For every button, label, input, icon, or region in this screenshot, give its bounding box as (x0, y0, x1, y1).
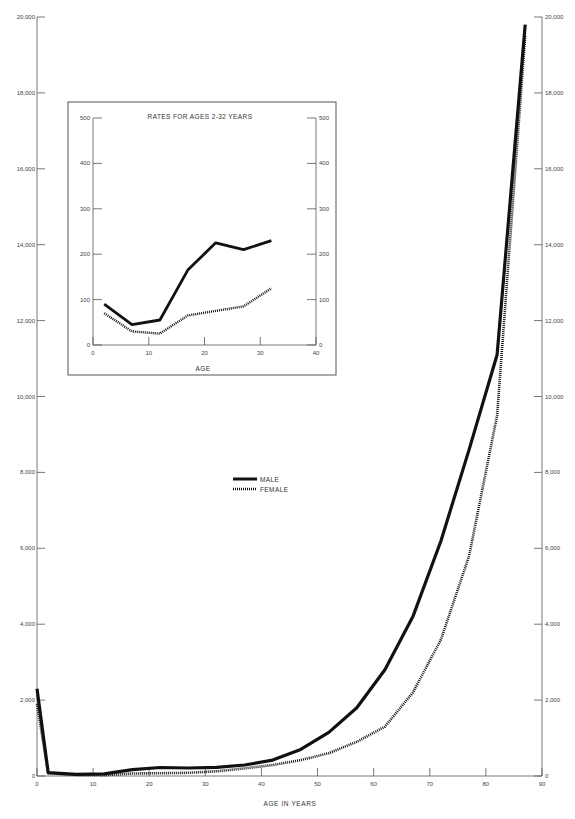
y-tick-label-right: 6,000 (545, 545, 561, 551)
y-tick-label-left: 18,000 (17, 90, 36, 96)
x-tick-label: 90 (539, 781, 546, 787)
y-tick-label-left: 6,000 (20, 545, 36, 551)
inset-y-tick-label-left: 400 (80, 160, 91, 166)
y-tick-label-left: 12,000 (17, 318, 36, 324)
y-tick-label-right: 8,000 (545, 469, 561, 475)
y-tick-label-right: 20,000 (545, 14, 564, 20)
inset-y-tick-label-right: 100 (319, 297, 330, 303)
inset-y-tick-label-left: 100 (80, 297, 91, 303)
inset-frame (68, 102, 336, 375)
x-tick-label: 20 (146, 781, 153, 787)
inset-y-tick-label-left: 300 (80, 206, 91, 212)
y-tick-label-right: 14,000 (545, 242, 564, 248)
inset-x-tick-label: 30 (257, 350, 264, 356)
x-tick-label: 70 (426, 781, 433, 787)
inset-x-axis-title: AGE (196, 365, 211, 372)
y-tick-label-left: 14,000 (17, 242, 36, 248)
inset-x-tick-label: 40 (313, 350, 320, 356)
inset-y-tick-label-left: 200 (80, 251, 91, 257)
inset-y-tick-label-left: 500 (80, 115, 91, 121)
y-tick-label-left: 20,000 (17, 14, 36, 20)
y-tick-label-right: 18,000 (545, 90, 564, 96)
inset-title: RATES FOR AGES 2-32 YEARS (148, 113, 253, 120)
inset-y-tick-label-right: 300 (319, 206, 330, 212)
legend-female-label: FEMALE (260, 486, 289, 493)
x-tick-label: 10 (90, 781, 97, 787)
y-tick-label-right: 16,000 (545, 166, 564, 172)
x-tick-label: 30 (202, 781, 209, 787)
y-tick-label-right: 0 (545, 773, 549, 779)
x-axis-title: AGE IN YEARS (264, 800, 317, 807)
y-tick-label-right: 2,000 (545, 697, 561, 703)
inset-y-tick-label-right: 500 (319, 115, 330, 121)
inset-chart: RATES FOR AGES 2-32 YEARS 00100100200200… (68, 102, 336, 375)
y-tick-label-left: 0 (32, 773, 36, 779)
x-tick-label: 40 (258, 781, 265, 787)
x-tick-label: 80 (483, 781, 490, 787)
y-tick-label-left: 10,000 (17, 394, 36, 400)
y-tick-label-right: 12,000 (545, 318, 564, 324)
y-tick-label-right: 10,000 (545, 394, 564, 400)
y-tick-label-left: 2,000 (20, 697, 36, 703)
inset-x-tick-label: 20 (201, 350, 208, 356)
x-tick-label: 50 (314, 781, 321, 787)
legend: MALE FEMALE (233, 476, 289, 493)
mortality-chart: 002,0002,0004,0004,0006,0006,0008,0008,0… (0, 0, 575, 819)
inset-y-tick-label-right: 400 (319, 160, 330, 166)
y-tick-label-left: 16,000 (17, 166, 36, 172)
x-tick-label: 0 (35, 781, 39, 787)
legend-male-label: MALE (260, 476, 280, 483)
x-tick-label: 60 (370, 781, 377, 787)
inset-x-tick-label: 10 (145, 350, 152, 356)
y-tick-label-left: 4,000 (20, 621, 36, 627)
inset-y-tick-label-right: 200 (319, 251, 330, 257)
y-tick-label-right: 4,000 (545, 621, 561, 627)
y-tick-label-left: 8,000 (20, 469, 36, 475)
